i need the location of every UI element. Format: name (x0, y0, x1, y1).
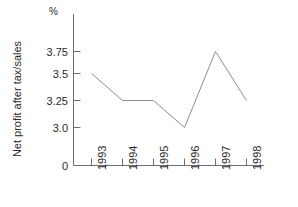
y-tick-label-3-25: 3.25 (47, 95, 68, 107)
y-tick-label-wrap-3-25: 3.25 (20, 95, 68, 107)
y-tick-label-0: 0 (62, 160, 68, 172)
x-tick-label-1993: 1993 (96, 130, 108, 170)
y-tick-label-wrap-3-5: 3.5 (20, 68, 68, 80)
y-tick-label-wrap-3-75: 3.75 (20, 46, 68, 58)
y-tick-label-3-5: 3.5 (53, 68, 68, 80)
line-chart: Net profit after tax/sales % 3.75 3.5 3.… (0, 0, 298, 207)
x-tick-label-1997: 1997 (220, 130, 232, 170)
y-tick-label-3-0: 3.0 (53, 122, 68, 134)
x-tick-label-1995: 1995 (158, 130, 170, 170)
y-tick-label-3-75: 3.75 (47, 46, 68, 58)
x-tick-label-1998: 1998 (251, 130, 263, 170)
y-axis-unit-label: % (44, 6, 58, 18)
y-tick-label-wrap-3-0: 3.0 (20, 122, 68, 134)
y-tick-label-wrap-0: 0 (20, 160, 68, 172)
x-tick-label-1996: 1996 (189, 130, 201, 170)
x-tick-label-1994: 1994 (127, 130, 139, 170)
